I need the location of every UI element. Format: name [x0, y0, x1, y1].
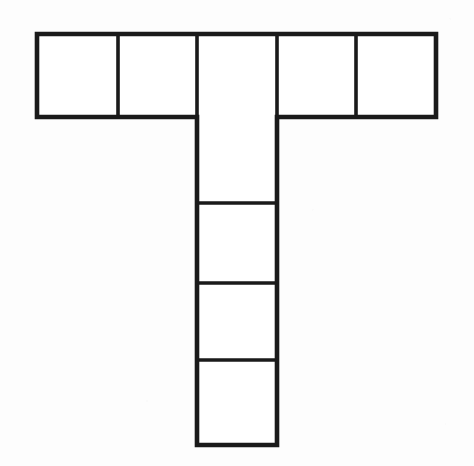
t-shape-diagram	[0, 0, 474, 466]
t-shape-interior	[37, 34, 436, 445]
figure-canvas	[0, 0, 474, 466]
